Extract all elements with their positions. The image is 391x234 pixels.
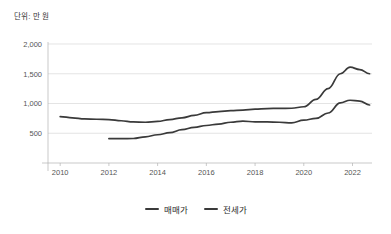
x-tick-label: 2010 [52, 168, 69, 177]
y-tick-label: 500 [29, 129, 42, 138]
legend-label-jeonsega: 전세가 [223, 203, 247, 215]
legend-item-jeonsega[interactable]: 전세가 [204, 203, 247, 215]
legend-swatch-jeonsega [204, 208, 218, 210]
y-tick-label: 2,000 [23, 40, 42, 49]
series-lines [60, 67, 369, 139]
x-tick-labels: 2010201220142016201820202022 [52, 168, 361, 177]
x-tick-label: 2020 [295, 168, 312, 177]
y-tick-labels: 5001,0001,5002,000 [23, 40, 42, 138]
x-tick-label: 2012 [101, 168, 118, 177]
y-tick-label: 1,500 [23, 70, 42, 79]
x-tick-label: 2014 [149, 168, 166, 177]
line-chart: 단위: 만 원 5001,0001,5002,000 2010201220142… [0, 0, 391, 234]
x-tick-label: 2018 [247, 168, 264, 177]
legend-item-maemaega[interactable]: 매매가 [145, 203, 188, 215]
x-tick-label: 2022 [344, 168, 361, 177]
chart-plot-area: 5001,0001,5002,000 201020122014201620182… [0, 0, 391, 234]
x-axis [42, 163, 372, 166]
y-tick-label: 1,000 [23, 99, 42, 108]
legend-label-maemaega: 매매가 [164, 203, 188, 215]
x-tick-label: 2016 [198, 168, 215, 177]
legend-swatch-maemaega [145, 208, 159, 210]
chart-legend: 매매가 전세가 [0, 203, 391, 215]
